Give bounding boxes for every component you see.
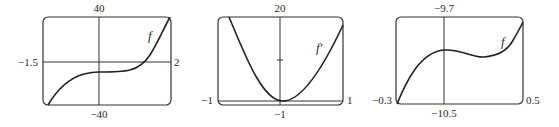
function-label: f′: [316, 40, 323, 55]
ymin-label: −1: [274, 108, 286, 120]
ymax-label: −9.7: [434, 2, 454, 14]
curve-f: [48, 17, 170, 105]
graph-f-prime: 20 −1 −1 1 f′: [201, 2, 352, 120]
xmax-label: 0.5: [526, 94, 540, 106]
xmin-label: −1.5: [18, 56, 38, 68]
ymax-label: 20: [275, 2, 287, 14]
graph-frame: [396, 17, 523, 104]
xmin-label: −0.3: [372, 94, 392, 106]
ymin-label: −10.5: [431, 107, 457, 119]
ymax-label: 40: [94, 2, 106, 14]
function-label: f: [501, 34, 507, 49]
graph-f: 40 −40 −1.5 2 f: [18, 2, 179, 120]
xmax-label: 1: [347, 94, 353, 106]
figure: 40 −40 −1.5 2 f 20 −1 −1 1 f′ −9.7 −10.5…: [0, 0, 559, 127]
function-label: f: [148, 28, 154, 43]
graph-frame: [43, 17, 171, 105]
graph-f-zoomed: −9.7 −10.5 −0.3 0.5 f: [372, 2, 540, 119]
curve-f-prime: [229, 17, 343, 101]
xmax-label: 2: [174, 56, 180, 68]
ymin-label: −40: [90, 108, 108, 120]
xmin-label: −1: [201, 94, 213, 106]
